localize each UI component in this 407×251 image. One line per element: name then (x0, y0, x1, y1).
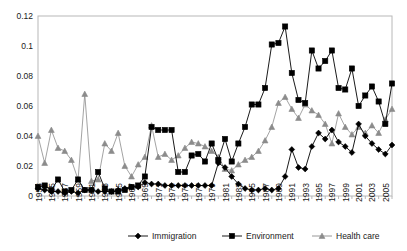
data-point-square (222, 136, 227, 141)
chart-container: 00.020.040.060.080.10.121953195519571959… (0, 0, 407, 251)
data-point-square (383, 121, 388, 126)
x-axis-tick-label: 1991 (287, 183, 297, 202)
data-point-square (156, 127, 161, 132)
data-point-square (343, 87, 348, 92)
data-point-square (289, 70, 294, 75)
x-axis-tick-label: 1999 (341, 183, 351, 202)
y-axis-tick-label: 0.06 (16, 101, 33, 111)
data-point-square (376, 99, 381, 104)
y-axis-tick-label: 0.08 (16, 71, 33, 81)
x-axis-tick-label: 1995 (314, 183, 324, 202)
data-point-square (96, 169, 101, 174)
data-point-square (369, 84, 374, 89)
data-point-square (256, 102, 261, 107)
x-axis-tick-label: 1981 (221, 183, 231, 202)
y-axis-tick-label: 0.1 (21, 41, 33, 51)
y-axis-tick-label: 0.02 (16, 161, 33, 171)
data-point-square (283, 24, 288, 29)
x-axis-tick-label: 2005 (381, 183, 391, 202)
data-point-square (349, 66, 354, 71)
data-point-square (236, 141, 241, 146)
legend-label: Immigration (152, 231, 197, 241)
x-axis-tick-label: 2003 (367, 183, 377, 202)
x-axis-tick-label: 1969 (140, 183, 150, 202)
data-point-square (209, 141, 214, 146)
data-point-square (276, 40, 281, 45)
data-point-square (189, 153, 194, 158)
data-point-square (323, 58, 328, 63)
data-point-square (389, 81, 394, 86)
data-point-square (149, 124, 154, 129)
data-point-square (55, 177, 60, 182)
x-axis-tick-label: 1997 (327, 183, 337, 202)
data-point-square (269, 42, 274, 47)
data-point-square (242, 124, 247, 129)
data-point-square (229, 159, 234, 164)
data-point-square (303, 100, 308, 105)
legend-item-environment[interactable]: Environment (222, 231, 294, 241)
x-axis-tick-label: 1993 (301, 183, 311, 202)
data-point-square (249, 102, 254, 107)
x-axis-tick-label: 2001 (354, 183, 364, 202)
data-point-square (309, 48, 314, 53)
data-point-square (316, 66, 321, 71)
data-point-square (169, 127, 174, 132)
data-point-square (262, 85, 267, 90)
legend-label: Health care (336, 231, 380, 241)
data-point-square (182, 169, 187, 174)
data-point-diamond (135, 233, 141, 239)
data-point-square (356, 103, 361, 108)
data-point-square (75, 177, 80, 182)
data-point-square (202, 159, 207, 164)
plot-area-frame (38, 16, 392, 196)
data-point-square (296, 97, 301, 102)
legend-label: Environment (246, 231, 294, 241)
line-chart: 00.020.040.060.080.10.121953195519571959… (0, 0, 407, 251)
data-point-square (162, 127, 167, 132)
data-point-square (176, 169, 181, 174)
y-axis-tick-label: 0.12 (16, 11, 33, 21)
data-point-square (229, 233, 234, 238)
data-point-square (196, 151, 201, 156)
data-point-square (329, 48, 334, 53)
data-point-square (142, 174, 147, 179)
legend-item-immigration[interactable]: Immigration (128, 231, 197, 241)
data-point-square (363, 93, 368, 98)
data-point-square (336, 85, 341, 90)
y-axis-tick-label: 0.04 (16, 131, 33, 141)
legend-item-health-care[interactable]: Health care (312, 231, 380, 241)
